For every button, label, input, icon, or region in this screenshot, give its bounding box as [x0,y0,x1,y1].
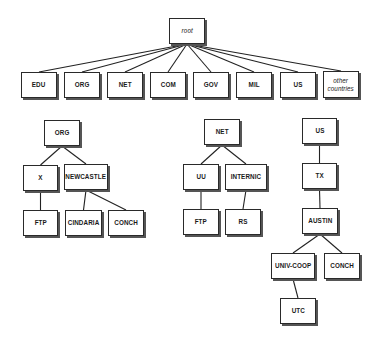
dns-tree-diagram: rootEDUORGNETCOMGOVMILUSother countriesO… [0,0,377,342]
edge-austin-univcoop [293,234,320,253]
node-net2: NET [204,119,240,145]
node-label: MIL [248,81,259,89]
node-label: UNIV-COOP [275,262,311,270]
edge-newcastle-cindaria [84,190,87,210]
node-root: root [169,18,205,44]
node-label: root [181,27,192,35]
edge-net2-uu [201,145,222,164]
node-org: ORG [64,72,100,98]
node-newcastle: NEWCASTLE [64,164,108,190]
edge-internic-rs [243,190,246,209]
node-label: AUSTIN [308,217,332,225]
node-net: NET [107,72,143,98]
node-label: TX [315,172,323,180]
node-conch1: CONCH [108,210,144,236]
node-label: NET [119,81,132,89]
node-austin: AUSTIN [302,208,338,234]
node-label: US [294,81,303,89]
node-other: other countries [323,71,359,98]
node-label: ORG [55,129,70,137]
edge-root-other [187,44,341,71]
edge-root-us [187,44,298,72]
node-label: NEWCASTLE [66,173,107,181]
node-label: ORG [75,81,90,89]
edge-univcoop-utc [293,279,298,298]
node-label: EDU [32,81,46,89]
node-utc: UTC [280,298,316,324]
node-label: other countries [328,77,354,93]
node-label: CINDARIA [68,219,100,227]
node-label: X [38,174,42,182]
edge-org2-newcastle [62,146,86,164]
node-edu: EDU [21,72,57,98]
node-rs: RS [225,209,261,235]
node-label: CONCH [114,219,138,227]
node-label: UTC [291,307,304,315]
node-us: US [280,72,316,98]
node-label: UU [196,173,205,181]
edge-root-edu [39,44,187,72]
node-label: FTP [195,218,207,226]
edge-root-gov [187,44,211,72]
node-label: FTP [34,219,46,227]
edge-org2-x [41,146,63,165]
node-label: US [315,127,324,135]
node-gov: GOV [193,72,229,98]
node-mil: MIL [236,72,272,98]
node-label: NET [216,128,229,136]
node-conch2: CONCH [324,253,360,279]
edge-net2-internic [222,145,246,164]
node-cindaria: CINDARIA [65,210,102,236]
node-label: RS [239,218,248,226]
node-label: INTERNIC [231,173,261,181]
node-ftp2: FTP [183,209,219,235]
node-us2: US [302,118,337,144]
node-label: CONCH [330,262,354,270]
node-univcoop: UNIV-COOP [271,253,315,279]
node-label: GOV [204,81,218,89]
node-x: X [23,165,58,191]
edge-austin-conch2 [320,234,342,253]
node-com: COM [150,72,186,98]
node-ftp1: FTP [23,210,58,236]
node-internic: INTERNIC [225,164,267,190]
edge-tx-austin [320,189,321,208]
node-uu: UU [183,164,219,190]
node-label: COM [161,81,176,89]
node-org2: ORG [44,120,80,146]
node-tx: TX [302,163,337,189]
edge-newcastle-conch1 [86,190,126,210]
